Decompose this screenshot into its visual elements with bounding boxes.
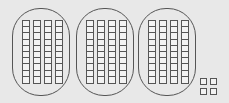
unit-cube bbox=[210, 78, 217, 85]
rod-cell bbox=[149, 77, 155, 83]
ten-rod bbox=[119, 20, 127, 84]
unit-cube bbox=[200, 88, 207, 95]
unit-cubes bbox=[200, 78, 217, 95]
rod-cell bbox=[23, 77, 29, 83]
rod-cell bbox=[160, 77, 166, 83]
rods-container bbox=[148, 20, 189, 84]
ten-rod bbox=[86, 20, 94, 84]
ten-rod bbox=[170, 20, 178, 84]
rod-cell bbox=[182, 77, 188, 83]
rod-cell bbox=[45, 77, 51, 83]
tens-group-oval bbox=[138, 8, 196, 96]
rod-cell bbox=[87, 77, 93, 83]
ten-rod bbox=[159, 20, 167, 84]
ten-rod bbox=[33, 20, 41, 84]
tens-group-oval bbox=[76, 8, 134, 96]
rod-cell bbox=[120, 77, 126, 83]
rod-cell bbox=[56, 77, 62, 83]
ten-rod bbox=[22, 20, 30, 84]
rod-cell bbox=[109, 77, 115, 83]
rod-cell bbox=[98, 77, 104, 83]
tens-group-oval bbox=[12, 8, 70, 96]
ten-rod bbox=[55, 20, 63, 84]
ten-rod bbox=[44, 20, 52, 84]
ten-rod bbox=[181, 20, 189, 84]
rod-cell bbox=[34, 77, 40, 83]
ten-rod bbox=[97, 20, 105, 84]
ten-rod bbox=[108, 20, 116, 84]
unit-cube bbox=[210, 88, 217, 95]
rods-container bbox=[22, 20, 63, 84]
rod-cell bbox=[171, 77, 177, 83]
unit-cube bbox=[200, 78, 207, 85]
ten-rod bbox=[148, 20, 156, 84]
rods-container bbox=[86, 20, 127, 84]
